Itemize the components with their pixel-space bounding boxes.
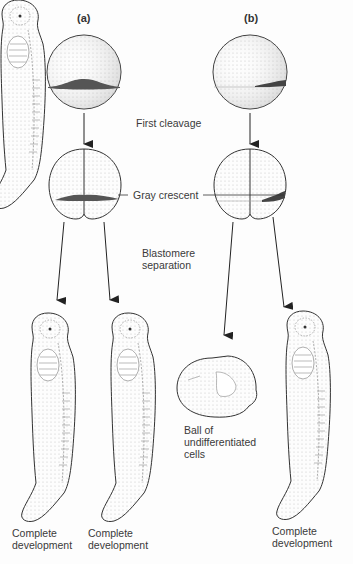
label-blastomere: Blastomere bbox=[142, 247, 195, 259]
outcome-b-left-line1: Ball of bbox=[184, 424, 213, 436]
outcome-a-left-line1: Complete bbox=[12, 527, 57, 539]
arrow-a-left bbox=[57, 222, 64, 300]
outcome-a-right-line1: Complete bbox=[88, 527, 133, 539]
larva-a-right bbox=[102, 313, 156, 522]
panel-label-b: (b) bbox=[244, 12, 258, 24]
outcome-b-right-line1: Complete bbox=[272, 525, 317, 537]
embryo-b-two-cell bbox=[214, 149, 286, 219]
label-gray-crescent: Gray crescent bbox=[133, 189, 198, 201]
larva-a-left bbox=[22, 313, 76, 522]
label-first-cleavage: First cleavage bbox=[136, 117, 201, 129]
diagram-figure bbox=[0, 0, 353, 564]
arrow-a-right bbox=[104, 222, 110, 300]
outcome-b-left-line2: undifferentiated bbox=[184, 436, 256, 448]
outcome-b-right-line2: development bbox=[272, 537, 332, 549]
outcome-a-right-line2: development bbox=[88, 539, 148, 551]
arrow-b-left bbox=[224, 222, 233, 335]
ball-undifferentiated-cells bbox=[177, 356, 257, 417]
label-separation: separation bbox=[142, 259, 191, 271]
egg-a-uncleaved bbox=[47, 35, 121, 109]
egg-b-uncleaved bbox=[213, 35, 287, 109]
embryo-a-two-cell bbox=[49, 149, 121, 219]
outcome-b-left-line3: cells bbox=[184, 448, 205, 460]
panel-label-a: (a) bbox=[77, 12, 90, 24]
outcome-a-left-line2: development bbox=[12, 539, 72, 551]
arrow-b-right bbox=[273, 217, 284, 307]
larva-b-right bbox=[277, 311, 331, 520]
